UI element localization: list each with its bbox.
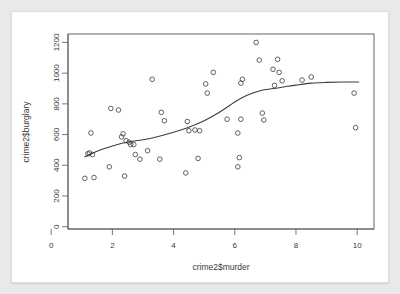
scatter-point [262, 118, 267, 123]
y-tick-label: 800 [52, 97, 61, 111]
scatter-point [300, 78, 305, 83]
screenshot-canvas: 020040060080010001200 0246810 crime2$mur… [0, 0, 400, 294]
scatter-point [353, 125, 358, 130]
x-axis: 0246810 [49, 229, 374, 250]
x-axis-title: crime2$murder [192, 262, 249, 272]
scatter-point [162, 118, 167, 123]
scatter-point [116, 108, 121, 113]
plot-card: 020040060080010001200 0246810 crime2$mur… [11, 11, 389, 283]
y-tick-label: 1200 [52, 33, 61, 51]
y-tick-label: 0 [52, 224, 61, 229]
x-tick-label: 2 [110, 241, 115, 250]
scatter-point [211, 70, 216, 75]
scatter-point [203, 82, 208, 87]
scatter-plot: 020040060080010001200 0246810 crime2$mur… [12, 12, 388, 282]
y-tick-label: 200 [52, 189, 61, 203]
scatter-point [225, 117, 230, 122]
y-tick-label: 600 [52, 127, 61, 141]
scatter-point [92, 175, 97, 180]
scatter-point [275, 57, 280, 62]
scatter-point [145, 148, 150, 153]
scatter-point [280, 79, 285, 84]
lowess-smooth-line [85, 82, 359, 157]
scatter-point [254, 40, 259, 45]
x-tick-label: 8 [294, 241, 299, 250]
scatter-point [187, 128, 192, 133]
scatter-point [352, 91, 357, 96]
scatter-point [138, 157, 143, 162]
y-axis-title: crime2$burglary [21, 101, 31, 163]
scatter-point [89, 131, 94, 136]
scatter-point [133, 152, 138, 157]
scatter-point [196, 156, 201, 161]
scatter-point [205, 91, 210, 96]
scatter-point [236, 131, 241, 136]
scatter-point [122, 174, 127, 179]
y-axis: 020040060080010001200 [52, 33, 68, 229]
scatter-point [271, 67, 276, 72]
scatter-point [184, 171, 189, 176]
scatter-points-group [83, 40, 358, 180]
scatter-point [185, 119, 190, 124]
scatter-point [131, 142, 136, 147]
x-tick-label: 4 [171, 241, 176, 250]
plot-frame [68, 34, 374, 229]
scatter-point [107, 165, 112, 170]
scatter-point [272, 83, 277, 88]
scatter-point [237, 155, 242, 160]
x-axis-ticks: 0246810 [49, 229, 362, 250]
scatter-point [277, 70, 282, 75]
scatter-point [257, 58, 262, 63]
scatter-point [309, 75, 314, 80]
y-tick-label: 400 [52, 158, 61, 172]
x-tick-label: 6 [233, 241, 238, 250]
x-tick-label: 0 [49, 241, 54, 250]
scatter-point [193, 128, 198, 133]
scatter-point [83, 176, 88, 181]
scatter-point [158, 157, 163, 162]
scatter-point [236, 165, 241, 170]
x-tick-label: 10 [353, 241, 362, 250]
scatter-point [197, 128, 202, 133]
y-tick-label: 1000 [52, 64, 61, 82]
scatter-point [159, 110, 164, 115]
scatter-point [109, 106, 114, 111]
scatter-point [260, 111, 265, 116]
scatter-point [239, 117, 244, 122]
scatter-point [150, 77, 155, 82]
y-axis-ticks: 020040060080010001200 [52, 33, 68, 229]
